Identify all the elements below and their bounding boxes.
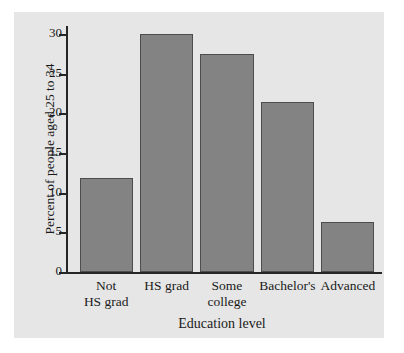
x-tick-label: HS grad [136,278,196,294]
y-axis-label: Percent of people aged 25 to 34 [42,26,60,272]
bar-slot [200,26,253,272]
x-tick-label-line: Some [197,278,257,294]
bar-slot [321,26,374,272]
bar-slot [261,26,314,272]
bar-slot [140,26,193,272]
x-axis-spine [60,272,382,274]
x-tick-label: NotHS grad [76,278,136,310]
x-tick-label-line: Not [76,278,136,294]
figure: 051015202530 NotHS gradHS gradSomecolleg… [0,0,404,353]
bar[interactable] [321,222,374,272]
plot-panel: 051015202530 NotHS gradHS gradSomecolleg… [14,12,384,338]
bar[interactable] [200,54,253,272]
bar-slot [80,26,133,272]
x-tick-label: Advanced [318,278,378,294]
x-tick-label-line: HS grad [76,294,136,310]
x-tick-label-line: Advanced [318,278,378,294]
plot-area: 051015202530 NotHS gradHS gradSomecolleg… [66,26,378,272]
bar[interactable] [80,178,133,272]
x-tick-label-line: college [197,294,257,310]
bar[interactable] [140,34,193,272]
x-tick-label: Somecollege [197,278,257,310]
x-tick-label-line: Bachelor's [257,278,317,294]
bar-series [76,26,378,272]
x-axis-label: Education level [66,316,378,332]
x-tick-label-line: HS grad [136,278,196,294]
bar[interactable] [261,102,314,272]
y-axis-spine [66,26,68,273]
x-tick-label: Bachelor's [257,278,317,294]
